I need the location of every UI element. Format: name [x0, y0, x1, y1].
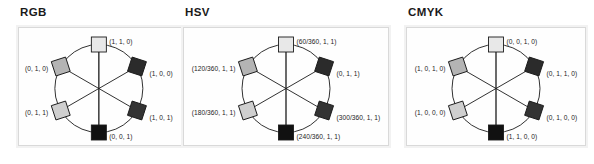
wheel-graphic-rgb [18, 27, 183, 146]
swatch-rgb-red [128, 57, 147, 76]
swatch-square [448, 101, 467, 120]
panel-rgb: RGB(1, 1, 0)(1, 0, 0)(1, 0, 1)(0, 0, 1)(… [18, 27, 183, 146]
swatch-square [91, 125, 106, 140]
swatch-rgb-magenta [128, 101, 147, 120]
panel-hsv: HSV(60/360, 1, 1)(0, 1, 1)(300/360, 1, 1… [183, 27, 389, 146]
swatch-label-rgb-blue: (0, 0, 1) [109, 133, 132, 140]
color-wheel-cmyk [406, 27, 586, 146]
swatch-hsv-cyan [238, 101, 257, 120]
swatch-square [489, 125, 504, 140]
color-wheel-hsv [183, 27, 389, 146]
swatch-hsv-red [315, 57, 334, 76]
panel-cmyk: CMYK(0, 0, 1, 0)(0, 1, 1, 0)(0, 1, 0, 0)… [406, 27, 586, 146]
swatch-rgb-blue [91, 125, 106, 140]
swatch-label-cmyk-cyan: (1, 0, 0, 0) [415, 109, 446, 116]
panel-title-hsv: HSV [185, 6, 210, 18]
swatch-hsv-green [238, 57, 257, 76]
swatch-label-rgb-cyan: (0, 1, 1) [25, 109, 48, 116]
swatch-cmyk-cyan [448, 101, 467, 120]
swatch-label-hsv-cyan: (180/360, 1, 1) [192, 109, 236, 116]
swatch-square [315, 101, 334, 120]
swatch-rgb-cyan [51, 101, 70, 120]
swatch-label-rgb-green: (0, 1, 0) [25, 65, 48, 72]
wheel-graphic-hsv [183, 27, 389, 146]
swatch-label-cmyk-yellow: (0, 0, 1, 0) [507, 38, 538, 45]
swatch-label-hsv-green: (120/360, 1, 1) [192, 65, 236, 72]
swatch-hsv-blue [279, 125, 294, 140]
swatch-square [279, 37, 294, 52]
swatch-square [238, 57, 257, 76]
color-model-wheels-figure: RGB(1, 1, 0)(1, 0, 0)(1, 0, 1)(0, 0, 1)(… [0, 0, 594, 164]
swatch-label-hsv-blue: (240/360, 1, 1) [297, 133, 341, 140]
swatch-square [525, 101, 544, 120]
swatch-label-cmyk-green: (1, 0, 1, 0) [415, 65, 446, 72]
swatch-label-cmyk-blue: (1, 1, 0, 0) [507, 133, 538, 140]
swatch-square [489, 37, 504, 52]
swatch-cmyk-green [448, 57, 467, 76]
swatch-square [128, 57, 147, 76]
swatch-label-cmyk-magenta: (0, 1, 0, 0) [547, 114, 578, 121]
swatch-label-rgb-yellow: (1, 1, 0) [109, 38, 132, 45]
swatch-cmyk-blue [489, 125, 504, 140]
swatch-label-hsv-red: (0, 1, 1) [337, 70, 360, 77]
swatch-square [448, 57, 467, 76]
swatch-label-cmyk-red: (0, 1, 1, 0) [547, 70, 578, 77]
swatch-square [238, 101, 257, 120]
swatch-square [128, 101, 147, 120]
swatch-cmyk-magenta [525, 101, 544, 120]
swatch-cmyk-red [525, 57, 544, 76]
swatch-square [315, 57, 334, 76]
swatch-square [51, 57, 70, 76]
swatch-rgb-yellow [91, 37, 106, 52]
swatch-square [51, 101, 70, 120]
wheel-graphic-cmyk [406, 27, 586, 146]
swatch-label-hsv-magenta: (300/360, 1, 1) [337, 114, 381, 121]
swatch-rgb-green [51, 57, 70, 76]
panel-title-cmyk: CMYK [408, 6, 443, 18]
swatch-hsv-magenta [315, 101, 334, 120]
color-wheel-rgb [18, 27, 183, 146]
swatch-label-rgb-magenta: (1, 0, 1) [149, 114, 172, 121]
swatch-label-hsv-yellow: (60/360, 1, 1) [297, 38, 337, 45]
swatch-square [91, 37, 106, 52]
panel-title-rgb: RGB [20, 6, 47, 18]
swatch-cmyk-yellow [489, 37, 504, 52]
swatch-square [279, 125, 294, 140]
swatch-square [525, 57, 544, 76]
swatch-hsv-yellow [279, 37, 294, 52]
swatch-label-rgb-red: (1, 0, 0) [149, 70, 172, 77]
